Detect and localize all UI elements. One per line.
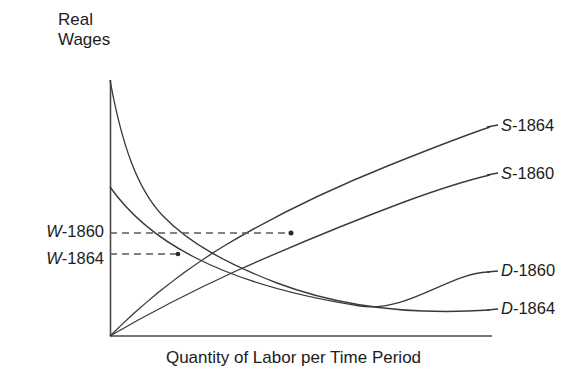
x-axis-title: Quantity of Labor per Time Period: [0, 348, 587, 368]
curve-label-d-1864-year: 1864: [518, 299, 555, 317]
labor-market-figure: Real Wages Quantity of Labor per Time Pe…: [0, 0, 587, 386]
wage-label-w-1860-year: 1860: [67, 222, 104, 240]
y-axis-title-line-1: Real: [58, 10, 110, 30]
curve-label-s-1860-symbol: S: [501, 164, 512, 182]
curve-label-d-1860-year: 1860: [518, 261, 555, 279]
wage-label-w-1864-symbol: W: [46, 249, 62, 267]
curve-label-d-1860-symbol: D: [501, 261, 513, 279]
curve-label-s-1864: S-1864: [501, 116, 554, 135]
curve-label-s-1860-year: 1860: [518, 164, 555, 182]
curve-label-s-1860: S-1860: [501, 164, 554, 183]
axis-lines: [110, 80, 492, 337]
leader-line-d-1864: [487, 309, 498, 310]
wage-label-w-1860-symbol: W: [46, 222, 62, 240]
equilibrium-dot-w-1860: [289, 231, 294, 236]
equilibrium-guide-lines: [110, 233, 291, 254]
curves: [110, 80, 490, 336]
y-axis-title-line-2: Wages: [58, 30, 110, 50]
leader-line-s-1864: [487, 125, 498, 127]
curve-label-d-1864-symbol: D: [501, 299, 513, 317]
curve-label-leader-lines: [487, 125, 498, 310]
leader-line-d-1860: [487, 271, 498, 272]
wage-label-w-1860: W-1860: [0, 222, 104, 241]
curve-d-1864: [110, 80, 490, 311]
equilibrium-dot-w-1864: [176, 252, 181, 257]
equilibrium-markers: [176, 231, 294, 257]
y-axis-title: Real Wages: [58, 10, 110, 50]
curve-label-s-1864-symbol: S: [501, 116, 512, 134]
leader-line-s-1860: [487, 173, 498, 175]
chart-plot-area: [0, 0, 587, 386]
wage-label-w-1864: W-1864: [0, 249, 104, 268]
curve-label-s-1864-year: 1864: [518, 116, 555, 134]
wage-label-w-1864-year: 1864: [67, 249, 104, 267]
curve-label-d-1860: D-1860: [501, 261, 555, 280]
curve-label-d-1864: D-1864: [501, 299, 555, 318]
